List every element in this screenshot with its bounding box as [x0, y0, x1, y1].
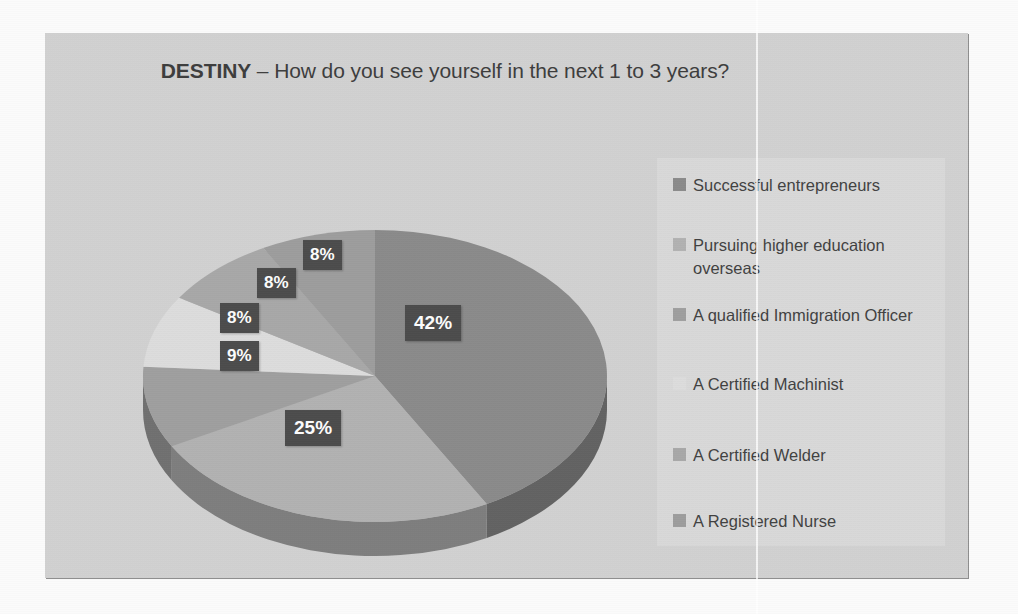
legend-swatch-icon — [673, 514, 686, 527]
legend-label: A qualified Immigration Officer — [693, 304, 913, 327]
legend-swatch-icon — [673, 238, 686, 251]
presentation-slide: DESTINY – How do you see yourself in the… — [45, 33, 968, 578]
legend-item-pursuing-higher-education-overseas[interactable]: Pursuing higher education overseas — [673, 234, 935, 280]
legend-label: A Registered Nurse — [693, 510, 836, 533]
chart-title: DESTINY – How do you see yourself in the… — [145, 55, 745, 86]
legend-swatch-icon — [673, 308, 686, 321]
data-label-slice-1: 25% — [285, 410, 341, 446]
chart-title-emphasis: DESTINY — [161, 59, 251, 82]
data-label-slice-2: 9% — [220, 341, 259, 371]
legend-item-successful-entrepreneurs[interactable]: Successful entrepreneurs — [673, 174, 935, 197]
legend-swatch-icon — [673, 178, 686, 191]
data-label-slice-0: 42% — [405, 305, 461, 341]
legend-item-certified-welder[interactable]: A Certified Welder — [673, 444, 935, 467]
pie-chart-plot-area: 42% 25% 9% 8% 8% 8% — [107, 148, 677, 568]
pie-top-face — [143, 230, 607, 522]
legend-item-qualified-immigration-officer[interactable]: A qualified Immigration Officer — [673, 304, 935, 327]
legend-item-registered-nurse[interactable]: A Registered Nurse — [673, 510, 935, 533]
legend-swatch-icon — [673, 448, 686, 461]
data-label-slice-5: 8% — [303, 240, 342, 270]
legend-label: A Certified Machinist — [693, 373, 843, 396]
legend-swatch-icon — [673, 377, 686, 390]
chart-title-rest: – How do you see yourself in the next 1 … — [251, 59, 729, 82]
pie-chart-svg — [107, 148, 677, 568]
data-label-slice-4: 8% — [257, 268, 296, 298]
legend-item-certified-machinist[interactable]: A Certified Machinist — [673, 373, 935, 396]
chart-legend: Successful entrepreneurs Pursuing higher… — [657, 158, 945, 546]
pie-chart: 42% 25% 9% 8% 8% 8% — [107, 148, 677, 568]
legend-label: A Certified Welder — [693, 444, 826, 467]
legend-label: Pursuing higher education overseas — [693, 234, 935, 280]
data-label-slice-3: 8% — [220, 303, 259, 333]
scanned-page: DESTINY – How do you see yourself in the… — [0, 0, 1018, 614]
legend-label: Successful entrepreneurs — [693, 174, 880, 197]
